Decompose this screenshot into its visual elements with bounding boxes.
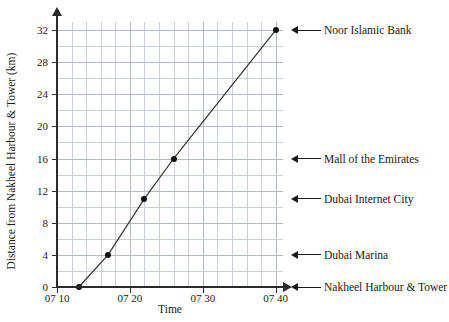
annotation-dubai-internet-city: Dubai Internet City <box>291 192 413 206</box>
x-axis-title: Time <box>57 303 283 315</box>
annotation-mall-of-the-emirates: Mall of the Emirates <box>291 152 419 166</box>
annotation-label: Dubai Internet City <box>321 193 413 205</box>
annotation-nakheel-harbour-tower: Nakheel Harbour & Tower <box>291 280 447 294</box>
annotation-dubai-marina: Dubai Marina <box>291 248 388 262</box>
data-series-line <box>57 22 283 287</box>
annotation-label: Mall of the Emirates <box>321 153 419 165</box>
y-axis-arrow-icon <box>52 7 62 16</box>
y-tick-label: 12 <box>26 185 48 197</box>
x-tick-label: 07 20 <box>118 292 143 304</box>
data-point <box>105 252 111 258</box>
plot-area <box>57 22 283 287</box>
y-tick-label: 24 <box>26 88 48 100</box>
y-axis-line <box>56 14 58 288</box>
arrow-left-icon <box>291 283 321 292</box>
y-tick-label: 20 <box>26 120 48 132</box>
arrow-left-icon <box>291 194 321 203</box>
y-tick-label: 16 <box>26 153 48 165</box>
arrow-left-icon <box>291 154 321 163</box>
annotation-label: Noor Islamic Bank <box>321 24 412 36</box>
distance-time-chart: Distance from Nakheel Harbour & Tower (k… <box>0 0 449 322</box>
x-axis-line <box>57 286 285 288</box>
arrow-left-icon <box>291 250 321 259</box>
x-tick-label: 07 30 <box>190 292 215 304</box>
data-point <box>171 156 177 162</box>
y-tick-label: 32 <box>26 24 48 36</box>
x-tick-label: 07 10 <box>45 292 70 304</box>
arrow-left-icon <box>291 26 321 35</box>
x-tick-label: 07 40 <box>263 292 288 304</box>
y-axis-title: Distance from Nakheel Harbour & Tower (k… <box>0 0 22 322</box>
y-tick-label: 28 <box>26 56 48 68</box>
data-point <box>273 27 279 33</box>
y-tick-label: 8 <box>26 217 48 229</box>
annotation-label: Dubai Marina <box>321 249 388 261</box>
annotation-label: Nakheel Harbour & Tower <box>321 281 447 293</box>
annotation-noor-islamic-bank: Noor Islamic Bank <box>291 23 412 37</box>
y-tick-label: 4 <box>26 249 48 261</box>
